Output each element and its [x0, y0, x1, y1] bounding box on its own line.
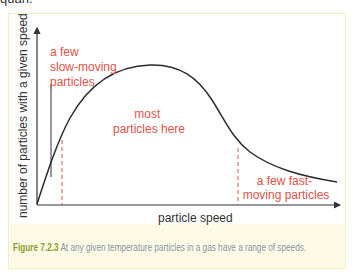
- x-axis-label: particle speed: [158, 211, 233, 225]
- caption-text: At any given temperature particles in a …: [59, 242, 307, 253]
- figure-number: Figure 7.2.3: [13, 242, 59, 253]
- figure-caption: Figure 7.2.3 At any given temperature pa…: [13, 242, 306, 253]
- y-axis-label: number of particles with a given speed: [16, 13, 30, 218]
- slow-particles-label: a few slow-moving particles: [50, 45, 120, 89]
- speed-distribution-chart: number of particles with a given speed p…: [0, 0, 356, 276]
- most-particles-label: most particles here: [113, 107, 185, 136]
